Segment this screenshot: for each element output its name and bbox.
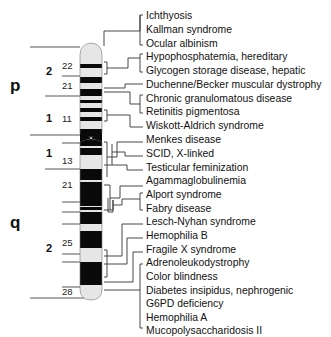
p-arm	[78, 40, 104, 140]
disease-label: G6PD deficiency	[146, 298, 224, 309]
band-label-q13: 13	[62, 155, 73, 166]
disease-label: Diabetes insipidus, nephrogenic	[146, 285, 293, 296]
locus-connector-lines	[104, 15, 143, 328]
arm-label-p: p	[10, 76, 20, 95]
disease-label: Menkes disease	[146, 134, 221, 145]
band-label-p11: 11	[62, 113, 72, 124]
disease-label: Mucopolysaccharidosis II	[146, 325, 262, 336]
band-label-p21: 21	[62, 80, 73, 91]
band-label-p22: 22	[62, 60, 73, 71]
disease-label: Fragile X syndrome	[146, 244, 236, 255]
region-label-q2: 2	[46, 242, 52, 254]
arm-label-q: q	[10, 213, 20, 232]
disease-label: Testicular feminization	[146, 162, 248, 173]
x-chromosome-disease-map: p q 2 1 1 2 22 21 11 13 21 25 28	[0, 0, 331, 337]
band-label-q25: 25	[62, 237, 73, 248]
disease-label: Kallman syndrome	[146, 24, 232, 35]
disease-label: Agammaglobulinemia	[146, 175, 246, 186]
disease-label: Hemophilia A	[146, 312, 207, 323]
disease-label: Ichthyosis	[146, 10, 192, 21]
q-arm	[78, 136, 104, 306]
disease-label: Wiskott-Aldrich syndrome	[146, 120, 264, 131]
disease-label: Chronic granulomatous disease	[146, 93, 292, 104]
disease-label: Hemophilia B	[146, 230, 208, 241]
disease-label: Fabry disease	[146, 203, 211, 214]
disease-label: Duchenne/Becker muscular dystrophy	[146, 79, 322, 90]
region-label-p1: 1	[46, 112, 52, 124]
region-label-q1: 1	[46, 147, 52, 159]
disease-list: Ichthyosis Kallman syndrome Ocular albin…	[146, 10, 322, 336]
disease-label: Adrenoleukodystrophy	[146, 257, 250, 268]
band-boundary-lines	[30, 47, 84, 298]
band-label-q21: 21	[62, 179, 73, 190]
disease-label: Retinitis pigmentosa	[146, 106, 240, 117]
disease-label: Color blindness	[146, 271, 218, 282]
disease-label: Hypophosphatemia, hereditary	[146, 51, 288, 62]
region-label-p2: 2	[46, 65, 52, 77]
disease-label: Glycogen storage disease, hepatic	[146, 65, 305, 76]
chromosome-ideogram	[78, 40, 104, 306]
disease-label: Ocular albinism	[146, 38, 218, 49]
disease-label: SCID, X-linked	[146, 148, 214, 159]
disease-label: Alport syndrome	[146, 189, 222, 200]
band-label-q28: 28	[62, 286, 73, 297]
disease-label: Lesch-Nyhan syndrome	[146, 216, 256, 227]
